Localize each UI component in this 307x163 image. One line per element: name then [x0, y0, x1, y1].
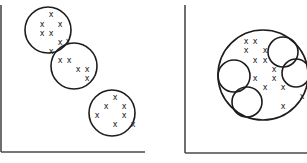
data-point-x-mark: x	[85, 65, 90, 74]
data-point-x-mark: x	[113, 93, 118, 102]
cluster-circle	[268, 37, 298, 67]
data-point-x-mark: x	[253, 37, 258, 46]
data-point-x-mark: x	[58, 38, 63, 47]
data-point-x-mark: x	[122, 111, 127, 120]
clustering-diagram: xxxxxxxxxxxxxxxxxxxx xxxxxxxxxxxxx	[0, 0, 307, 163]
data-point-x-mark: x	[40, 29, 45, 38]
data-point-x-mark: x	[281, 83, 286, 92]
data-point-x-mark: x	[244, 37, 249, 46]
data-point-x-mark: x	[49, 47, 54, 56]
cluster-circle	[282, 59, 307, 87]
data-point-x-mark: x	[49, 29, 54, 38]
data-point-x-mark: x	[263, 83, 268, 92]
data-point-x-mark: x	[272, 74, 277, 83]
data-point-x-mark: x	[253, 74, 258, 83]
data-point-x-mark: x	[113, 120, 118, 129]
data-point-x-mark: x	[131, 120, 136, 129]
data-point-x-mark: x	[122, 102, 127, 111]
data-point-x-mark: x	[49, 10, 54, 19]
data-point-x-mark: x	[300, 92, 305, 101]
data-point-x-mark: x	[253, 56, 258, 65]
data-point-x-mark: x	[263, 46, 268, 55]
cluster-circle	[51, 43, 97, 89]
right-panel-nested-clusters: xxxxxxxxxxxxx	[185, 5, 307, 153]
data-point-x-mark: x	[244, 46, 249, 55]
data-point-x-mark: x	[263, 56, 268, 65]
data-point-x-mark: x	[40, 20, 45, 29]
data-point-x-mark: x	[58, 20, 63, 29]
data-point-x-mark: x	[104, 102, 109, 111]
data-point-x-mark: x	[85, 74, 90, 83]
data-point-x-mark: x	[67, 56, 72, 65]
data-point-x-mark: x	[281, 102, 286, 111]
cluster-circle	[218, 30, 307, 120]
cluster-circle	[232, 87, 262, 117]
left-panel-separate-clusters: xxxxxxxxxxxxxxxxxxxx	[1, 5, 145, 152]
data-point-x-mark: x	[76, 65, 81, 74]
data-point-x-mark: x	[272, 65, 277, 74]
data-point-x-mark: x	[95, 111, 100, 120]
data-point-x-mark: x	[58, 56, 63, 65]
data-point-x-mark: x	[66, 37, 71, 46]
